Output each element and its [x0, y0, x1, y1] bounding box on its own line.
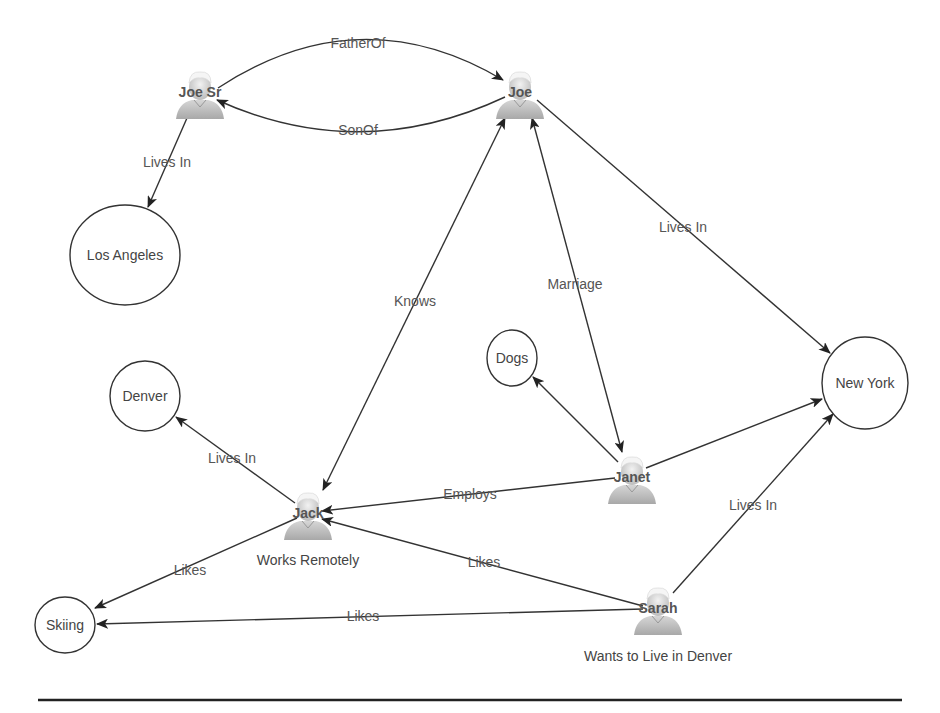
- edges: [95, 39, 833, 624]
- person-nodes: Joe Sr Joe Janet Jack Works Remotely Sar…: [176, 72, 732, 664]
- graph-canvas: FatherOf SonOf Lives In Lives In Knows M…: [0, 0, 940, 713]
- node-denver[interactable]: Denver: [110, 361, 180, 431]
- label-knows: Knows: [394, 293, 436, 309]
- node-joe-sr[interactable]: Joe Sr: [176, 72, 224, 119]
- node-joe-label: Joe: [508, 84, 532, 100]
- label-marriage: Marriage: [547, 276, 602, 292]
- label-sarah-likes-skiing: Likes: [347, 608, 380, 624]
- label-joe-lives-in: Lives In: [659, 219, 707, 235]
- label-jack-lives-in: Lives In: [208, 450, 256, 466]
- edge-janet-ny[interactable]: [646, 399, 822, 468]
- node-sarah-label: Sarah: [639, 600, 678, 616]
- node-dogs-label: Dogs: [496, 350, 529, 366]
- node-los-angeles-label: Los Angeles: [87, 247, 163, 263]
- node-janet[interactable]: Janet: [608, 457, 656, 504]
- label-sarah-lives-in: Lives In: [729, 497, 777, 513]
- node-jack-caption: Works Remotely: [257, 552, 359, 568]
- node-skiing[interactable]: Skiing: [35, 597, 95, 653]
- label-father-of: FatherOf: [330, 35, 385, 51]
- node-jack-label: Jack: [292, 505, 323, 521]
- node-janet-label: Janet: [614, 469, 651, 485]
- node-denver-label: Denver: [122, 388, 167, 404]
- node-sarah-caption: Wants to Live in Denver: [584, 648, 732, 664]
- node-new-york-label: New York: [835, 375, 895, 391]
- entity-nodes: Los Angeles Denver Dogs New York Skiing: [35, 205, 908, 653]
- node-sarah[interactable]: Sarah Wants to Live in Denver: [584, 588, 732, 664]
- label-son-of: SonOf: [338, 122, 378, 138]
- label-joe-sr-lives-in: Lives In: [143, 154, 191, 170]
- node-skiing-label: Skiing: [46, 617, 84, 633]
- node-joe-sr-label: Joe Sr: [179, 84, 222, 100]
- node-los-angeles[interactable]: Los Angeles: [70, 205, 180, 305]
- label-employs: Employs: [443, 486, 497, 502]
- node-dogs[interactable]: Dogs: [487, 330, 537, 386]
- node-new-york[interactable]: New York: [822, 337, 908, 429]
- node-joe[interactable]: Joe: [496, 72, 544, 119]
- node-jack[interactable]: Jack Works Remotely: [257, 493, 359, 568]
- label-jack-likes: Likes: [174, 562, 207, 578]
- label-sarah-likes-jack: Likes: [468, 554, 501, 570]
- edge-labels: FatherOf SonOf Lives In Lives In Knows M…: [143, 35, 777, 624]
